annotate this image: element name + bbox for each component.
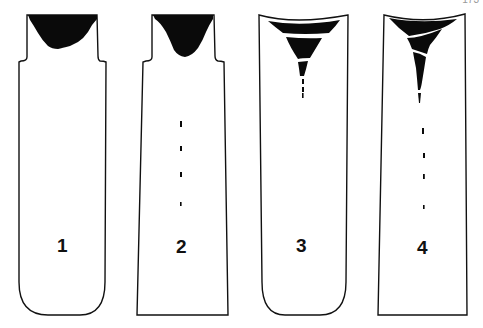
pipe-segment [422,128,424,134]
pipe-segment [180,146,182,151]
pipe-layer-2 [286,37,322,59]
shrinkage-cavity-2 [153,15,213,57]
pipe-segment [302,93,304,98]
pipe-segment [302,87,304,92]
pipe-layer-4 [418,93,421,103]
pipe-layer-3 [413,52,426,90]
panel-3: 3 [259,15,348,315]
pipe-segment [423,174,425,179]
pipe-segment [180,172,182,177]
pipe-layer-1 [389,18,457,36]
panel-label-3: 3 [296,235,307,256]
panel-2: 2 [137,15,228,315]
pipe-segment [423,205,425,209]
pipe-segment [180,121,182,127]
pipe-segment [302,79,304,84]
mold-outline-3 [259,15,348,315]
panel-4: 4 [378,14,467,315]
panel-label-1: 1 [57,235,68,256]
shrinkage-cavity-1 [28,15,97,49]
pipe-layer-1 [268,20,340,34]
mold-outline-2 [137,15,228,315]
pipe-segment [180,202,182,206]
ingot-diagram: 1 2 3 4 [0,0,483,328]
pipe-layer-3 [298,61,308,76]
panel-1: 1 [19,15,106,315]
panel-label-2: 2 [176,236,187,257]
pipe-segment [423,153,425,158]
panel-label-4: 4 [417,237,428,258]
mold-outline-1 [19,15,106,315]
